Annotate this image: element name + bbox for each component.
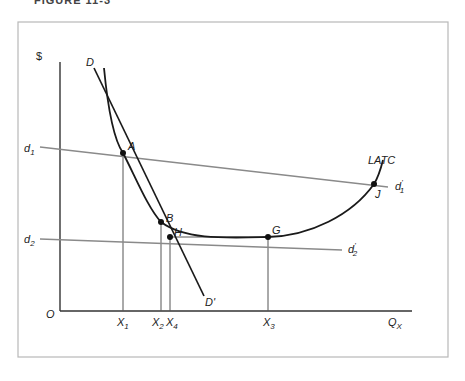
tick-x3: X3 bbox=[262, 316, 275, 331]
x-axis-label: QX bbox=[388, 316, 403, 331]
d-prime-label: D' bbox=[205, 296, 216, 308]
d1-line bbox=[40, 147, 388, 187]
tick-x4: X4 bbox=[165, 316, 178, 331]
tick-x1: X1 bbox=[116, 316, 129, 331]
label-b: B bbox=[166, 212, 173, 224]
label-h: H bbox=[174, 226, 182, 238]
y-axis-label: $ bbox=[36, 50, 42, 62]
d-label: D bbox=[86, 56, 94, 68]
demand-line-dd bbox=[94, 68, 204, 296]
label-a: A bbox=[127, 140, 135, 152]
point-j bbox=[371, 181, 377, 187]
origin-label: O bbox=[46, 308, 55, 320]
d2-prime-label: d'2 bbox=[348, 241, 358, 258]
d1-label: d1 bbox=[24, 142, 35, 157]
point-b bbox=[158, 219, 164, 225]
d2-line bbox=[40, 239, 342, 250]
point-h bbox=[167, 234, 173, 240]
latc-label: LATC bbox=[368, 154, 395, 166]
cost-curve-diagram: $ O QX D D' LATC d1 d'1 d2 d'2 A B H G J… bbox=[0, 0, 465, 381]
d2-label: d2 bbox=[24, 233, 35, 248]
label-j: J bbox=[374, 188, 381, 200]
figure-frame bbox=[18, 22, 448, 357]
latc-curve bbox=[104, 68, 383, 238]
point-a bbox=[120, 150, 126, 156]
point-g bbox=[265, 234, 271, 240]
d1-prime-label: d'1 bbox=[395, 178, 404, 195]
label-g: G bbox=[272, 224, 281, 236]
tick-x2: X2 bbox=[151, 316, 164, 331]
